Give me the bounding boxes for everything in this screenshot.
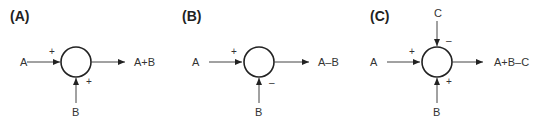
summing-junction xyxy=(422,47,452,77)
summing-junction-diagram: (A) A + A+B + B (B) A + A–B – B (C) C – … xyxy=(0,0,534,124)
input-c-sign: – xyxy=(446,35,452,46)
input-b-label: B xyxy=(255,106,262,118)
panel-label-a: (A) xyxy=(10,8,29,24)
input-a-label: A xyxy=(20,56,28,68)
output-label: A+B–C xyxy=(494,56,529,68)
panel-a: (A) A + A+B + B xyxy=(10,8,155,118)
output-label: A+B xyxy=(134,56,155,68)
input-c-label: C xyxy=(434,7,442,19)
input-a-label: A xyxy=(192,56,200,68)
input-a-sign: + xyxy=(231,46,237,57)
input-b-label: B xyxy=(433,106,440,118)
input-b-sign: + xyxy=(86,76,92,87)
input-a-sign: + xyxy=(409,46,415,57)
summing-junction xyxy=(244,47,274,77)
input-a-sign: + xyxy=(49,46,55,57)
input-b-sign: – xyxy=(269,77,275,88)
summing-junction xyxy=(61,47,91,77)
input-a-label: A xyxy=(370,56,378,68)
panel-label-c: (C) xyxy=(370,8,389,24)
input-b-label: B xyxy=(72,106,79,118)
input-b-sign: + xyxy=(446,76,452,87)
output-label: A–B xyxy=(318,56,339,68)
panel-label-b: (B) xyxy=(182,8,201,24)
panel-c: (C) C – A + A+B–C + B xyxy=(370,7,529,118)
panel-b: (B) A + A–B – B xyxy=(182,8,339,118)
